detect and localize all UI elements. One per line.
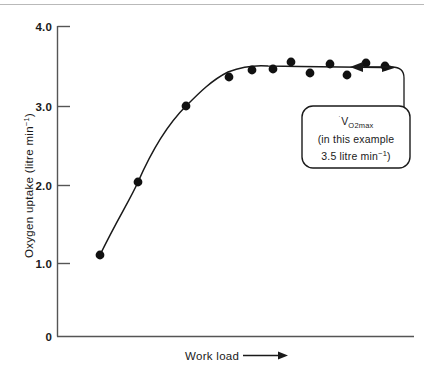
y-tick-label-3: 3.0 (35, 101, 52, 113)
callout-v-symbol: V (341, 115, 348, 127)
data-point (225, 73, 234, 82)
callout-line-2: (in this example (318, 133, 395, 145)
callout-leader-arrow-head (350, 62, 363, 72)
callout-exponent: −1 (378, 149, 387, 158)
y-axis-title-close: ) (23, 113, 35, 117)
data-point (381, 62, 390, 71)
data-point (134, 178, 143, 187)
y-tick-label-1: 1.0 (35, 258, 52, 270)
data-point (306, 69, 315, 78)
data-point (287, 58, 296, 67)
data-point (326, 60, 335, 69)
page-top-rule (0, 4, 424, 5)
callout-leader-line (363, 67, 404, 108)
callout-box-group: ˙VO2max (in this example 3.5 litre min−1… (302, 106, 410, 168)
y-axis-title: Oxygen uptake (litre min−1) (22, 113, 35, 258)
figure-panel: 4.0 3.0 2.0 1.0 0 Oxygen uptake (litre m… (0, 0, 424, 381)
x-axis-title: Work load (185, 350, 239, 362)
callout-value: 3.5 litre min (321, 150, 378, 162)
y-axis-title-group: Oxygen uptake (litre min−1) (22, 113, 35, 258)
data-point (248, 66, 257, 75)
callout-max-sub: max (359, 121, 374, 130)
y-tick-label-4: 4.0 (35, 21, 52, 33)
y-axis-title-main: Oxygen uptake (litre min (23, 126, 35, 258)
y-tick-labels: 4.0 3.0 2.0 1.0 0 (35, 21, 52, 343)
data-point (343, 71, 352, 80)
callout-close-paren: ) (387, 150, 391, 162)
data-point (96, 251, 105, 260)
data-point (269, 65, 278, 74)
x-axis-title-group: Work load (185, 350, 288, 362)
x-axis-arrow-head (278, 352, 288, 360)
axes-group (57, 26, 414, 337)
callout-leader-group (350, 62, 404, 108)
y-axis-title-exponent: −1 (22, 117, 31, 126)
y-tick-label-2: 2.0 (35, 180, 52, 192)
y-tick-label-0: 0 (45, 331, 52, 343)
oxygen-uptake-chart: 4.0 3.0 2.0 1.0 0 Oxygen uptake (litre m… (0, 0, 424, 381)
data-point (182, 102, 191, 111)
